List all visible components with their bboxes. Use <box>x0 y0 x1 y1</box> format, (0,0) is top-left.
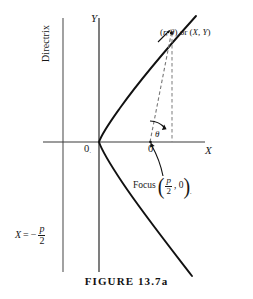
directrix-equation-denominator: 2 <box>38 236 45 246</box>
x-axis-label: X <box>205 145 212 156</box>
point-label-cartesian: X, Y <box>192 27 207 37</box>
figure-container: Y X 0· 0 (r, θ) or (X, Y) θ Directrix Fo… <box>0 0 253 299</box>
radius-dashed-line <box>150 35 171 142</box>
directrix-equation-fraction: p 2 <box>38 224 45 246</box>
point-label-close-paren: ) <box>207 27 210 37</box>
directrix-equation-numerator: p <box>38 224 45 234</box>
figure-caption: FIGURE 13.7a <box>0 275 253 287</box>
focus-fraction-numerator: p <box>165 176 172 185</box>
focus-second-coordinate: , 0 <box>174 181 184 191</box>
focus-leader-line <box>152 146 163 176</box>
focus-fraction-denominator: 2 <box>165 187 172 196</box>
theta-arc <box>150 121 165 128</box>
origin-label-y-axis: 0· <box>84 144 91 156</box>
directrix-label: Directrix <box>41 25 51 62</box>
directrix-equation-equals: = <box>23 230 29 240</box>
point-coordinates-label: (r, θ) or (X, Y) <box>160 28 210 37</box>
origin-label-focus: 0 <box>148 144 153 155</box>
focus-label-word: Focus <box>133 181 156 191</box>
y-axis-label: Y <box>91 13 97 24</box>
parabola-diagram <box>0 0 253 299</box>
focus-label: Focus ( p 2 , 0 ) . <box>133 176 192 196</box>
point-label-polar: r, θ <box>163 27 174 37</box>
directrix-equation-label: X = − p 2 <box>15 224 46 246</box>
directrix-equation-minus: − <box>31 230 37 240</box>
point-label-or: ) or ( <box>174 27 192 37</box>
directrix-equation-variable: X <box>15 230 21 240</box>
focus-fraction: p 2 <box>165 176 172 196</box>
theta-angle-label: θ <box>155 130 159 139</box>
focus-close-paren: ) <box>183 177 190 195</box>
origin-label-y-axis-subscript: · <box>89 150 91 156</box>
focus-open-paren: ( <box>158 177 165 195</box>
